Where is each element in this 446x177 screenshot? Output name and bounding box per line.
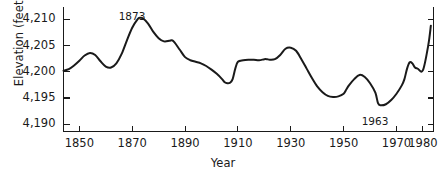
elevation-chart: Elevation (feet) Year 4,1904,1954,2004,2… [0,0,446,177]
chart-series-group [64,18,431,106]
series-line-0 [64,18,431,106]
x-tick-label: 1910 [214,136,262,150]
y-tick-label: 4,205 [0,38,56,52]
chart-plot-area [0,0,446,177]
y-tick-label: 4,210 [0,11,56,25]
annotation-1873: 1873 [110,10,154,22]
x-tick-label: 1890 [161,136,209,150]
x-axis-title: Year [0,156,446,170]
x-tick-label: 1930 [267,136,315,150]
y-tick-label: 4,200 [0,64,56,78]
x-tick-label: 1850 [55,136,103,150]
annotation-1963: 1963 [353,115,397,127]
chart-axes [64,7,434,132]
x-tick-label: 1950 [320,136,368,150]
x-tick-label: 1870 [108,136,156,150]
y-tick-label: 4,195 [0,90,56,104]
x-tick-label: 1980 [399,136,446,150]
y-tick-label: 4,190 [0,116,56,130]
